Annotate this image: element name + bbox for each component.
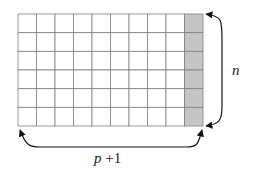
grid-cell [74, 33, 93, 52]
grid-cell [37, 107, 56, 126]
rows-arrow [206, 14, 222, 126]
columns-label-rest: +1 [102, 150, 122, 166]
grid-cell [129, 70, 148, 89]
grid-cell [92, 33, 111, 52]
rows-label: n [232, 62, 240, 79]
shaded-cell [185, 89, 204, 108]
grid-cell [148, 89, 167, 108]
matrix-grid [18, 14, 203, 126]
grid-cell [129, 89, 148, 108]
grid-cell [148, 33, 167, 52]
columns-label-var: p [94, 150, 102, 166]
matrix-diagram [0, 0, 254, 182]
columns-label: p +1 [94, 150, 121, 167]
grid-cell [166, 107, 185, 126]
grid-cell [37, 70, 56, 89]
grid-cell [18, 51, 37, 70]
grid-cell [55, 14, 74, 33]
grid-cell [166, 33, 185, 52]
grid-cell [129, 51, 148, 70]
shaded-cell [185, 14, 204, 33]
grid-cell [18, 70, 37, 89]
grid-cell [111, 70, 130, 89]
grid-cell [74, 14, 93, 33]
grid-cell [74, 51, 93, 70]
grid-cell [92, 89, 111, 108]
grid-cell [18, 107, 37, 126]
grid-cell [111, 89, 130, 108]
grid-cell [92, 107, 111, 126]
grid-cell [148, 70, 167, 89]
grid-cell [55, 89, 74, 108]
grid-cell [55, 107, 74, 126]
shaded-cell [185, 70, 204, 89]
grid-cell [55, 33, 74, 52]
grid-cell [74, 70, 93, 89]
grid-cell [148, 14, 167, 33]
grid-cell [111, 51, 130, 70]
grid-cell [55, 51, 74, 70]
columns-arrow [20, 130, 202, 147]
grid-cell [148, 51, 167, 70]
grid-cell [166, 89, 185, 108]
grid-cell [37, 14, 56, 33]
grid-cell [18, 33, 37, 52]
grid-cell [92, 51, 111, 70]
grid-cell [92, 14, 111, 33]
grid-cell [74, 89, 93, 108]
grid-cell [129, 107, 148, 126]
grid-cell [92, 70, 111, 89]
grid-cell [37, 51, 56, 70]
grid-cell [166, 14, 185, 33]
grid-cell [148, 107, 167, 126]
shaded-cell [185, 51, 204, 70]
grid-cell [18, 14, 37, 33]
shaded-cell [185, 107, 204, 126]
grid-cell [166, 70, 185, 89]
grid-cell [129, 33, 148, 52]
grid-cell [55, 70, 74, 89]
grid-cell [37, 33, 56, 52]
grid-cell [74, 107, 93, 126]
grid-cell [18, 89, 37, 108]
grid-cell [166, 51, 185, 70]
grid-cell [111, 107, 130, 126]
grid-cell [111, 14, 130, 33]
shaded-cell [185, 33, 204, 52]
grid-cell [111, 33, 130, 52]
grid-cell [129, 14, 148, 33]
grid-cell [37, 89, 56, 108]
